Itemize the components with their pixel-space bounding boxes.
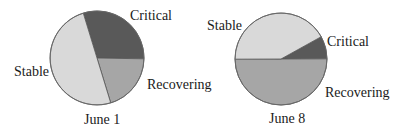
label-stable-june-1: Stable	[14, 64, 49, 79]
caption-june-8: June 8	[269, 111, 305, 126]
label-recovering-june-1: Recovering	[147, 77, 212, 92]
pie-chart-june-1	[50, 11, 144, 105]
slice-recovering	[235, 59, 327, 105]
label-critical-june-8: Critical	[327, 34, 369, 49]
pie-charts-figure: Critical Stable Recovering June 1 Stable…	[0, 0, 403, 132]
label-critical-june-1: Critical	[130, 8, 172, 23]
label-stable-june-8: Stable	[207, 18, 242, 33]
caption-june-1: June 1	[84, 112, 120, 127]
label-recovering-june-8: Recovering	[325, 85, 390, 100]
pie-chart-june-8	[235, 13, 327, 105]
